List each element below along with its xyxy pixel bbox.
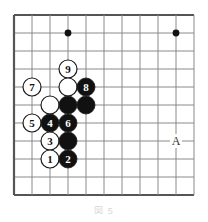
stone-disc bbox=[59, 96, 77, 114]
stone-move-number: 1 bbox=[47, 153, 53, 165]
black-stone[interactable]: 6 bbox=[59, 114, 77, 132]
stone-move-number: 4 bbox=[47, 117, 53, 129]
star-point bbox=[65, 30, 72, 37]
stone-disc bbox=[59, 78, 77, 96]
black-stone[interactable]: 2 bbox=[59, 150, 77, 168]
stone-disc bbox=[41, 96, 59, 114]
stone-move-number: 7 bbox=[29, 81, 35, 93]
black-stone[interactable] bbox=[77, 96, 95, 114]
stone-move-number: 3 bbox=[47, 135, 53, 147]
black-stone[interactable]: 4 bbox=[41, 114, 59, 132]
stone-move-number: 5 bbox=[29, 117, 35, 129]
go-board-figure: A978546312 図 5 bbox=[0, 0, 208, 222]
white-stone[interactable]: 9 bbox=[59, 60, 77, 78]
stone-move-number: 9 bbox=[65, 63, 71, 75]
white-stone[interactable] bbox=[41, 96, 59, 114]
stone-move-number: 2 bbox=[65, 153, 71, 165]
figure-caption-strip: 図 5 bbox=[0, 206, 208, 222]
black-stone[interactable] bbox=[59, 96, 77, 114]
stone-disc bbox=[59, 132, 77, 150]
white-stone[interactable]: 3 bbox=[41, 132, 59, 150]
stones[interactable]: 978546312 bbox=[23, 60, 95, 168]
white-stone[interactable]: 1 bbox=[41, 150, 59, 168]
star-point bbox=[173, 30, 180, 37]
white-stone[interactable] bbox=[59, 78, 77, 96]
board-markers: A bbox=[170, 134, 182, 148]
black-stone[interactable]: 8 bbox=[77, 78, 95, 96]
board-marker-label: A bbox=[172, 134, 181, 148]
stone-disc bbox=[77, 96, 95, 114]
stone-move-number: 6 bbox=[65, 117, 71, 129]
go-board[interactable]: A978546312 bbox=[0, 0, 208, 208]
white-stone[interactable]: 7 bbox=[23, 78, 41, 96]
black-stone[interactable] bbox=[59, 132, 77, 150]
stone-move-number: 8 bbox=[83, 81, 89, 93]
figure-caption: 図 5 bbox=[94, 206, 114, 214]
white-stone[interactable]: 5 bbox=[23, 114, 41, 132]
